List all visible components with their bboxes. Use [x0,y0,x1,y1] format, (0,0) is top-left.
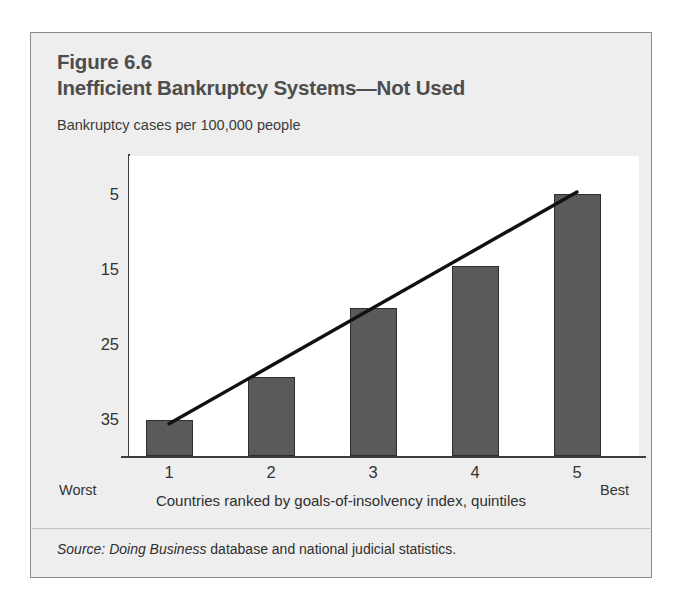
x-tick-2: 2 [266,463,275,482]
y-tick-15: 15 [53,259,119,278]
source-prefix: Source: Doing Business [57,541,206,557]
x-tick-4: 4 [470,463,479,482]
plot-area [129,156,639,456]
figure-title: Inefficient Bankruptcy Systems—Not Used [57,75,627,101]
figure-number: Figure 6.6 [57,49,627,75]
source-divider [32,528,650,529]
y-tick-35: 35 [53,409,119,428]
x-axis-line [121,456,646,458]
figure-heading: Figure 6.6 Inefficient Bankruptcy System… [57,49,627,101]
source-rest: database and national judicial statistic… [206,541,456,557]
source-note: Source: Doing Business database and nati… [57,541,456,557]
y-tick-5: 5 [53,184,119,203]
figure-panel: Figure 6.6 Inefficient Bankruptcy System… [30,32,652,578]
trend-line [129,156,639,456]
x-tick-3: 3 [368,463,377,482]
x-tick-1: 1 [164,463,173,482]
y-tick-25: 25 [53,334,119,353]
x-axis-caption: Countries ranked by goals-of-insolvency … [31,492,651,509]
x-tick-5: 5 [572,463,581,482]
